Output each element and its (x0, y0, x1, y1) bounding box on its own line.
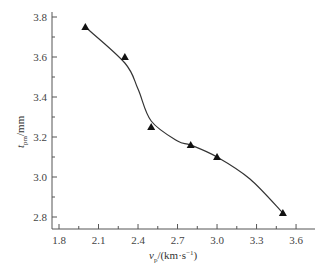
x-tick-label: 3.0 (210, 234, 224, 246)
x-axis-ticks: 1.82.12.42.73.03.33.6 (52, 224, 303, 246)
fitted-curve (85, 27, 283, 213)
x-axis-label: vp/(km·s−1) (149, 249, 198, 264)
x-tick-label: 1.8 (52, 234, 66, 246)
x-tick-label: 3.6 (289, 234, 303, 246)
y-tick-label: 3.0 (33, 171, 47, 183)
data-markers (81, 23, 287, 216)
triangle-marker (121, 53, 129, 60)
y-axis-ticks: 2.83.03.23.43.63.8 (33, 11, 57, 223)
chart-canvas: 2.83.03.23.43.63.8 1.82.12.42.73.03.33.6… (0, 0, 328, 274)
x-tick-label: 3.3 (250, 234, 264, 246)
y-axis-label: tpm/mm (14, 115, 29, 148)
x-tick-label: 2.4 (131, 234, 145, 246)
triangle-marker (81, 23, 89, 30)
y-tick-label: 3.2 (33, 131, 47, 143)
triangle-marker (213, 153, 221, 160)
y-tick-label: 3.8 (33, 11, 47, 23)
y-tick-label: 2.8 (33, 211, 47, 223)
y-tick-label: 3.4 (33, 91, 47, 103)
x-tick-label: 2.7 (171, 234, 185, 246)
y-tick-label: 3.6 (33, 51, 47, 63)
x-tick-label: 2.1 (92, 234, 106, 246)
